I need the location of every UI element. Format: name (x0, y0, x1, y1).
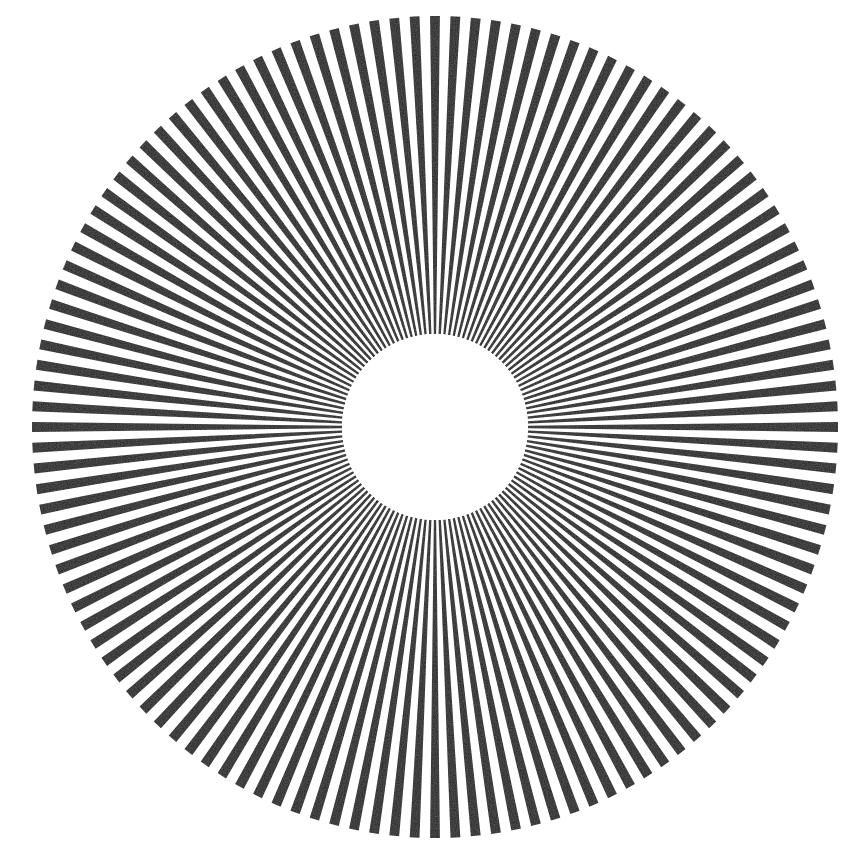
figure-stage (0, 0, 862, 860)
radial-sunburst-figure (0, 0, 862, 860)
inner-white-disc (342, 334, 528, 520)
